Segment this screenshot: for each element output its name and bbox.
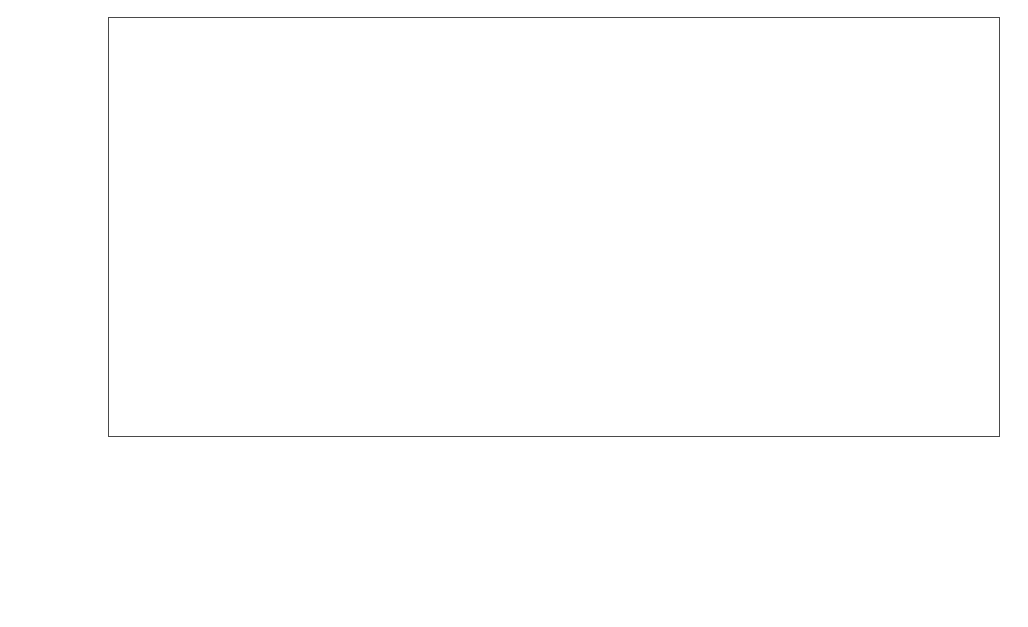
y-axis-tick-labels [48, 0, 104, 627]
plot-area [108, 17, 1000, 437]
figure [0, 0, 1028, 627]
chart-legend [108, 566, 938, 624]
legend-row-2 [108, 596, 938, 622]
stacked-area-chart [109, 18, 999, 436]
x-axis-tick-labels [108, 439, 1000, 509]
legend-row-1 [108, 566, 938, 592]
